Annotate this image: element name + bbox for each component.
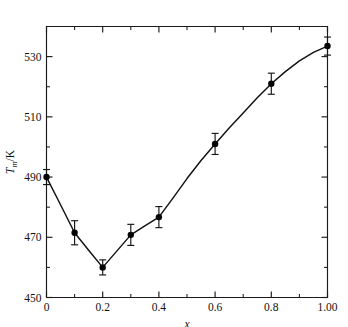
y-tick-label: 470 (24, 231, 42, 243)
data-point[interactable] (71, 230, 77, 236)
chart-page: STRUCTURE NUCLEAR MAGNETIC 00.20.40.60.8… (0, 0, 348, 327)
axes-layer (47, 27, 328, 298)
x-tick-label: 0.2 (96, 301, 111, 313)
data-point[interactable] (100, 264, 106, 270)
y-tick-label: 490 (24, 171, 42, 183)
axis-labels-layer: 00.20.40.60.81.00450470490510530xTm/K (4, 51, 338, 327)
y-tick-label: 530 (24, 51, 42, 63)
x-tick-label: 0.4 (152, 301, 167, 313)
y-axis-label: Tm/K (4, 149, 19, 174)
data-point[interactable] (128, 232, 134, 238)
error-bar-layer (43, 37, 331, 275)
fitted-curve-layer (47, 46, 328, 267)
data-points-layer (43, 43, 330, 271)
fitted-curve (47, 46, 328, 267)
x-tick-label: 0.6 (208, 301, 223, 313)
y-tick-label: 450 (24, 292, 42, 304)
x-axis-label: x (183, 318, 190, 327)
data-point[interactable] (324, 43, 330, 49)
y-axis-label-unit: /K (4, 149, 16, 161)
y-tick-label: 510 (24, 111, 42, 123)
x-tick-label: 0.8 (264, 301, 279, 313)
data-point[interactable] (156, 214, 162, 220)
data-point[interactable] (212, 141, 218, 147)
x-tick-label: 0 (44, 301, 50, 313)
data-point[interactable] (43, 174, 49, 180)
plot-canvas: 00.20.40.60.81.00450470490510530xTm/K (0, 0, 348, 327)
x-tick-label: 1.00 (317, 301, 337, 313)
plot-frame (47, 27, 328, 298)
y-axis-label-text: Tm/K (4, 149, 19, 174)
data-point[interactable] (268, 81, 274, 87)
